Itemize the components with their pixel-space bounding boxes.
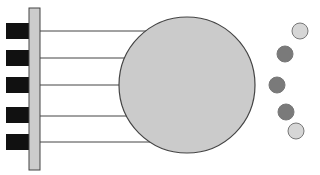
large-circle xyxy=(119,17,255,153)
diagram-canvas xyxy=(0,0,320,175)
dot-2-dark xyxy=(277,46,293,62)
black-blocks xyxy=(6,23,29,150)
black-block-5 xyxy=(6,134,29,150)
black-block-4 xyxy=(6,107,29,123)
dot-1-light xyxy=(292,23,308,39)
black-block-3 xyxy=(6,77,29,93)
black-block-1 xyxy=(6,23,29,39)
vertical-bar xyxy=(29,8,40,170)
dot-4-dark xyxy=(278,104,294,120)
small-dots xyxy=(269,23,308,139)
dot-3-dark xyxy=(269,77,285,93)
black-block-2 xyxy=(6,50,29,66)
dot-5-light xyxy=(288,123,304,139)
